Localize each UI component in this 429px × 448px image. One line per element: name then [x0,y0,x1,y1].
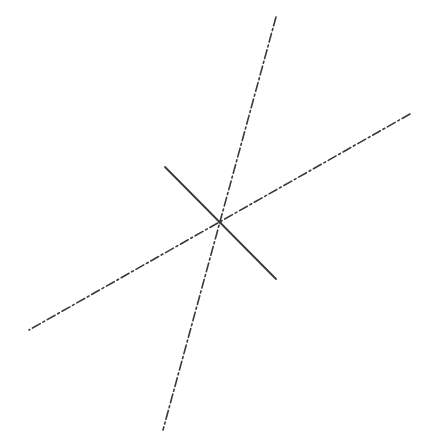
line-diagram [0,0,429,448]
intersection-point [218,220,222,224]
